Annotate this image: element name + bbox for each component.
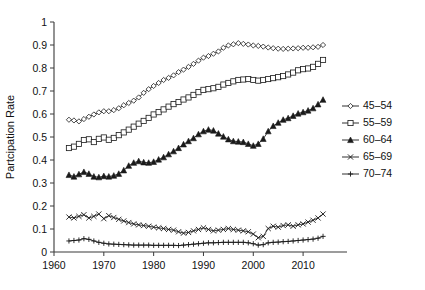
series-group xyxy=(66,41,326,249)
series-65-69 xyxy=(66,211,325,240)
y-tick-label: 0 xyxy=(41,246,47,258)
y-tick-label: 0.4 xyxy=(32,154,47,166)
y-tick-label: 1 xyxy=(41,16,47,28)
x-tick-label: 2010 xyxy=(291,259,315,271)
legend-item-55-59[interactable]: 55–59 xyxy=(342,116,392,128)
y-tick-label: 0.1 xyxy=(32,223,47,235)
x-tick-label: 1990 xyxy=(192,259,216,271)
series-45-54 xyxy=(66,41,325,124)
legend-label: 65–69 xyxy=(363,150,392,162)
y-axis-title: Partcipation Rate xyxy=(4,95,16,179)
legend-item-65-69[interactable]: 65–69 xyxy=(342,150,392,162)
legend-item-70-74[interactable]: 70–74 xyxy=(342,167,392,179)
x-tick-label: 1970 xyxy=(92,259,116,271)
y-tick-label: 0.2 xyxy=(32,200,47,212)
y-tick-label: 0.5 xyxy=(32,131,47,143)
chart-canvas: 00.10.20.30.40.50.60.70.80.91 1960197019… xyxy=(0,0,425,290)
y-tick-label: 0.8 xyxy=(32,62,47,74)
x-tick-label: 1960 xyxy=(42,259,66,271)
participation-rate-chart: 00.10.20.30.40.50.60.70.80.91 1960197019… xyxy=(0,0,425,290)
series-70-74 xyxy=(66,234,325,248)
legend-item-60-64[interactable]: 60–64 xyxy=(342,133,392,145)
y-tick-label: 0.9 xyxy=(32,39,47,51)
x-tick-label: 1980 xyxy=(142,259,166,271)
legend-label: 60–64 xyxy=(363,133,392,145)
y-axis-tick-group: 00.10.20.30.40.50.60.70.80.91 xyxy=(32,16,54,258)
y-tick-label: 0.6 xyxy=(32,108,47,120)
legend-label: 55–59 xyxy=(363,116,392,128)
y-tick-label: 0.3 xyxy=(32,177,47,189)
legend-item-45-54[interactable]: 45–54 xyxy=(342,99,392,111)
legend-label: 45–54 xyxy=(363,99,392,111)
x-axis-tick-group: 196019701980199020002010 xyxy=(42,252,315,271)
y-tick-label: 0.7 xyxy=(32,85,47,97)
chart-legend: 45–5455–5960–6465–6970–74 xyxy=(342,99,392,179)
x-tick-label: 2000 xyxy=(242,259,266,271)
legend-label: 70–74 xyxy=(363,167,392,179)
